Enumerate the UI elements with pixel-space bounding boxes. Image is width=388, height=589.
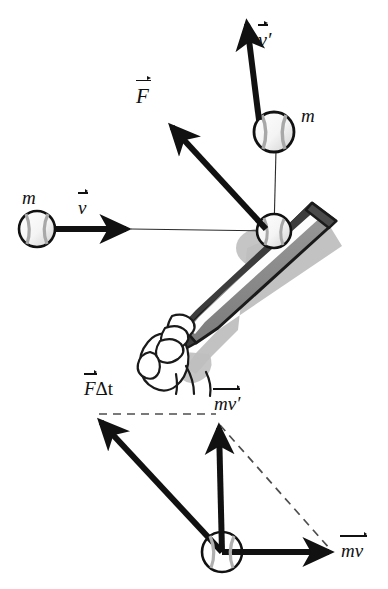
physics-figure: m v F v′ m FΔt mv′ mv bbox=[0, 0, 388, 589]
label-momentum-initial: mv bbox=[341, 541, 363, 560]
bat-group bbox=[138, 203, 342, 396]
incoming-ball bbox=[19, 211, 55, 247]
vector-F bbox=[172, 127, 266, 229]
label-impulse: FΔt bbox=[84, 379, 113, 398]
dashed-right bbox=[220, 425, 330, 549]
vector-F-delta-t bbox=[101, 422, 222, 552]
label-velocity-outgoing: v′ bbox=[258, 30, 271, 50]
label-momentum-final: mv′ bbox=[214, 394, 240, 413]
figure-canvas bbox=[0, 0, 388, 589]
label-force: F bbox=[136, 86, 149, 107]
contact-ball bbox=[257, 214, 291, 248]
parallelogram-dashed bbox=[99, 414, 330, 549]
upper-vectors bbox=[55, 24, 266, 229]
label-mass-incoming: m bbox=[22, 188, 36, 207]
label-velocity-incoming: v bbox=[78, 198, 86, 217]
label-mass-outgoing: m bbox=[301, 106, 315, 125]
